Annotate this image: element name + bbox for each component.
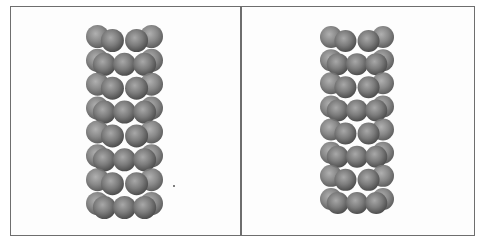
atom-sphere — [113, 53, 136, 76]
atom-sphere — [365, 53, 387, 75]
atom-sphere — [133, 196, 156, 219]
atom-sphere — [133, 53, 156, 76]
atom-sphere — [365, 99, 387, 121]
atom-sphere — [346, 99, 368, 121]
atom-sphere — [358, 76, 380, 98]
atom-sphere — [327, 99, 349, 121]
atom-sphere — [358, 123, 380, 145]
atom-sphere — [125, 124, 148, 147]
atom-sphere — [334, 123, 356, 145]
atom-sphere — [113, 148, 136, 171]
atom-sphere — [358, 169, 380, 191]
atom-sphere — [133, 148, 156, 171]
atom-sphere — [365, 146, 387, 168]
atom-sphere — [327, 146, 349, 168]
panel-right — [242, 6, 475, 236]
artifact-dot — [173, 185, 175, 187]
atom-sphere — [334, 76, 356, 98]
atom-sphere — [101, 124, 124, 147]
atom-sphere — [125, 77, 148, 100]
atom-sphere — [113, 101, 136, 124]
atom-sphere — [334, 169, 356, 191]
atom-sphere — [346, 53, 368, 75]
left-nanotube-cluster — [11, 6, 240, 236]
right-nanotube-cluster — [242, 6, 475, 236]
atom-sphere — [358, 30, 380, 52]
atom-sphere — [365, 192, 387, 214]
atom-sphere — [101, 172, 124, 195]
atom-sphere — [133, 101, 156, 124]
atom-sphere — [334, 30, 356, 52]
atom-sphere — [93, 101, 116, 124]
atom-sphere — [113, 196, 136, 219]
atom-sphere — [93, 196, 116, 219]
atom-sphere — [327, 192, 349, 214]
atom-sphere — [346, 192, 368, 214]
atom-sphere — [93, 53, 116, 76]
atom-sphere — [346, 146, 368, 168]
atom-sphere — [101, 77, 124, 100]
atom-sphere — [101, 29, 124, 52]
atom-sphere — [125, 29, 148, 52]
panel-left — [11, 6, 240, 236]
atom-sphere — [125, 172, 148, 195]
atom-sphere — [93, 148, 116, 171]
atom-sphere — [327, 53, 349, 75]
